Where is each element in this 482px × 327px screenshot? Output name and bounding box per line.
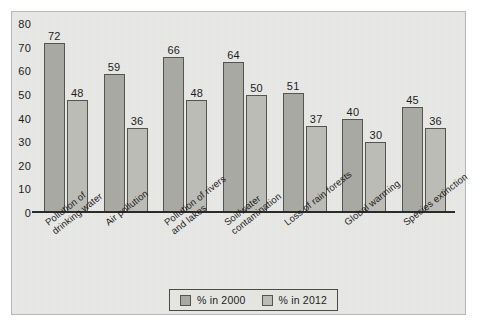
bar-value-label: 37 [310, 113, 323, 125]
bar-value-label: 66 [167, 44, 180, 56]
legend-item-0: % in 2000 [180, 294, 246, 306]
bar-value-label: 48 [71, 87, 84, 99]
bar-value-label: 51 [287, 80, 300, 92]
y-axis-tick-10: 10 [18, 183, 31, 195]
bar-value-label: 36 [131, 115, 144, 127]
legend-swatch-icon [262, 295, 273, 306]
bar-value-label: 72 [48, 30, 61, 42]
y-axis-tick-50: 50 [18, 89, 31, 101]
bar: 40 [342, 119, 363, 214]
y-axis-tick-0: 0 [25, 207, 31, 219]
bar-value-label: 36 [429, 115, 442, 127]
y-axis-tick-20: 20 [18, 160, 31, 172]
bar-value-label: 50 [250, 82, 263, 94]
y-axis-tick-40: 40 [18, 113, 31, 125]
bar-value-label: 40 [347, 106, 360, 118]
bar-value-label: 64 [227, 49, 240, 61]
legend-swatch-icon [180, 295, 191, 306]
bar: 51 [283, 93, 304, 213]
legend-label: % in 2000 [197, 294, 246, 306]
y-axis-tick-60: 60 [18, 65, 31, 77]
legend-label: % in 2012 [279, 294, 328, 306]
chart-legend: % in 2000% in 2012 [169, 289, 338, 311]
bar-group: 5936 [97, 24, 157, 213]
y-axis-tick-30: 30 [18, 136, 31, 148]
bar: 66 [163, 57, 184, 213]
bar: 59 [104, 74, 125, 213]
bar: 72 [44, 43, 65, 213]
y-axis-tick-80: 80 [18, 18, 31, 30]
bar-value-label: 48 [190, 87, 203, 99]
chart-figure: 01020304050607080 7248593666486450513740… [0, 0, 482, 327]
bar-value-label: 30 [370, 129, 383, 141]
bar: 45 [402, 107, 423, 213]
bar-value-label: 45 [406, 94, 419, 106]
y-axis-tick-70: 70 [18, 42, 31, 54]
bar-value-label: 59 [108, 61, 121, 73]
legend-item-1: % in 2012 [262, 294, 328, 306]
